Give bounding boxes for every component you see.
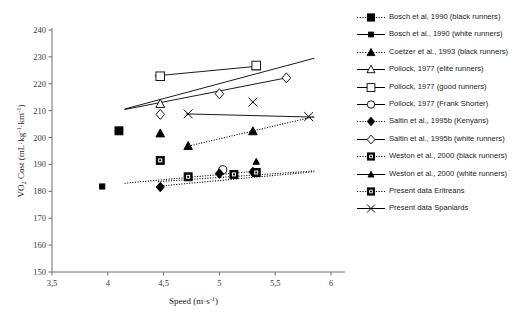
y-tick-label: 150: [33, 267, 46, 277]
data-point: [156, 182, 164, 192]
data-point-core: [255, 172, 257, 174]
legend-item[interactable]: Weston et al., 2000 (black runners): [356, 151, 532, 162]
legend-item[interactable]: Bosch et al, 1990 (black runners): [356, 12, 532, 23]
legend-marker-box-square-icon: [356, 186, 386, 197]
legend-marker-open-triangle-icon: [356, 64, 386, 75]
saltin-white-trend: [125, 78, 287, 110]
series-11: [184, 98, 313, 121]
x-tick-label: 5,5: [270, 278, 281, 288]
data-point-core: [187, 176, 189, 178]
legend-item-label: Pollock, 1977 (Frank Shorter): [389, 99, 488, 108]
series-9: [253, 158, 259, 164]
legend-marker-open-square-icon: [356, 82, 386, 93]
pollock-good-trend: [155, 66, 260, 76]
y-tick-label: 200: [33, 133, 46, 143]
data-point: [156, 109, 165, 119]
legend-item-label: Present data Eritreans: [389, 186, 465, 195]
legend-marker-filled-square-icon: [356, 12, 386, 23]
data-point: [249, 127, 258, 135]
legend-item-label: Coetzer et al., 1993 (black runners): [389, 47, 508, 56]
data-point: [115, 127, 123, 135]
legend-item[interactable]: Pollock, 1977 (Frank Shorter): [356, 99, 532, 110]
legend-item-label: Weston et al., 2000 (white runners): [389, 169, 507, 178]
y-tick-label: 220: [33, 79, 46, 89]
legend-item-label: Pollock, 1977 (elite runners): [389, 64, 484, 73]
legend-marker-cross-x-icon: [356, 203, 386, 214]
legend-item-label: Saltin et al., 1995b (white runners): [389, 134, 505, 143]
legend-marker-open-diamond-icon: [356, 134, 386, 145]
series-8: [156, 156, 164, 164]
legend-item[interactable]: Present data Eritreans: [356, 186, 532, 197]
x-tick-label: 5: [217, 278, 221, 288]
legend-item-label: Bosch et al, 1990 (black runners): [389, 12, 500, 21]
data-point: [100, 184, 105, 189]
legend-item[interactable]: Present data Spaniards: [356, 203, 532, 214]
legend-item[interactable]: Bosch et al., 1990 (white runners): [356, 29, 532, 40]
y-tick-label: 180: [33, 186, 46, 196]
legend-item-label: Weston et al., 2000 (black runners): [389, 151, 507, 160]
legend-item-label: Pollock, 1977 (good runners): [389, 82, 487, 91]
chart-series-markers: [100, 61, 313, 192]
legend-item-label: Saltin et al., 1995b (Kenyans): [389, 116, 489, 125]
legend-marker-open-circle-icon: [356, 99, 386, 110]
data-point: [156, 129, 165, 137]
x-tick-label: 6: [329, 278, 333, 288]
spaniards-trend: [186, 114, 314, 117]
y-tick-label: 160: [33, 240, 46, 250]
legend-item[interactable]: Pollock, 1977 (good runners): [356, 82, 532, 93]
legend-item-label: Present data Spaniards: [389, 203, 468, 212]
y-tick-label: 230: [33, 52, 46, 62]
y-axis-title: VO2 Cost (mL·kg-1·km-1): [15, 105, 27, 198]
data-point: [282, 73, 291, 83]
series-0: [115, 127, 123, 135]
legend-marker-small-filled-triangle-icon: [356, 169, 386, 180]
y-tick-label: 190: [33, 159, 46, 169]
legend-item[interactable]: Saltin et al., 1995b (Kenyans): [356, 116, 532, 127]
legend-item[interactable]: Weston et al., 2000 (white runners): [356, 169, 532, 180]
x-tick-label: 4: [106, 278, 111, 288]
legend-marker-filled-diamond-icon: [356, 116, 386, 127]
series-6: [156, 167, 257, 192]
legend-item[interactable]: Coetzer et al., 1993 (black runners): [356, 47, 532, 58]
legend-item-label: Bosch et al., 1990 (white runners): [389, 29, 503, 38]
data-point: [156, 72, 165, 81]
legend-marker-filled-triangle-icon: [356, 47, 386, 58]
series-7: [156, 73, 291, 120]
series-2: [156, 127, 257, 150]
legend-item[interactable]: Pollock, 1977 (elite runners): [356, 64, 532, 75]
y-tick-label: 240: [33, 25, 46, 35]
legend-marker-small-filled-square-icon: [356, 29, 386, 40]
chart-axes: 1501601701801902002102202302403,544,555,…: [15, 25, 345, 306]
pollock-elite-trend: [125, 58, 315, 109]
x-axis-title: Speed (m·s-1): [169, 295, 218, 306]
chart-figure: 1501601701801902002102202302403,544,555,…: [0, 0, 532, 321]
x-tick-label: 4,5: [158, 278, 169, 288]
series-1: [100, 184, 105, 189]
x-tick-label: 3,5: [47, 278, 58, 288]
data-point: [252, 61, 261, 70]
y-tick-label: 170: [33, 213, 46, 223]
legend-item[interactable]: Saltin et al., 1995b (white runners): [356, 134, 532, 145]
data-point-core: [233, 173, 235, 175]
legend-marker-box-square-icon: [356, 151, 386, 162]
y-tick-label: 210: [33, 106, 46, 116]
data-point-core: [159, 159, 161, 161]
chart-legend: Bosch et al, 1990 (black runners)Bosch e…: [356, 12, 532, 221]
data-point: [253, 158, 259, 164]
